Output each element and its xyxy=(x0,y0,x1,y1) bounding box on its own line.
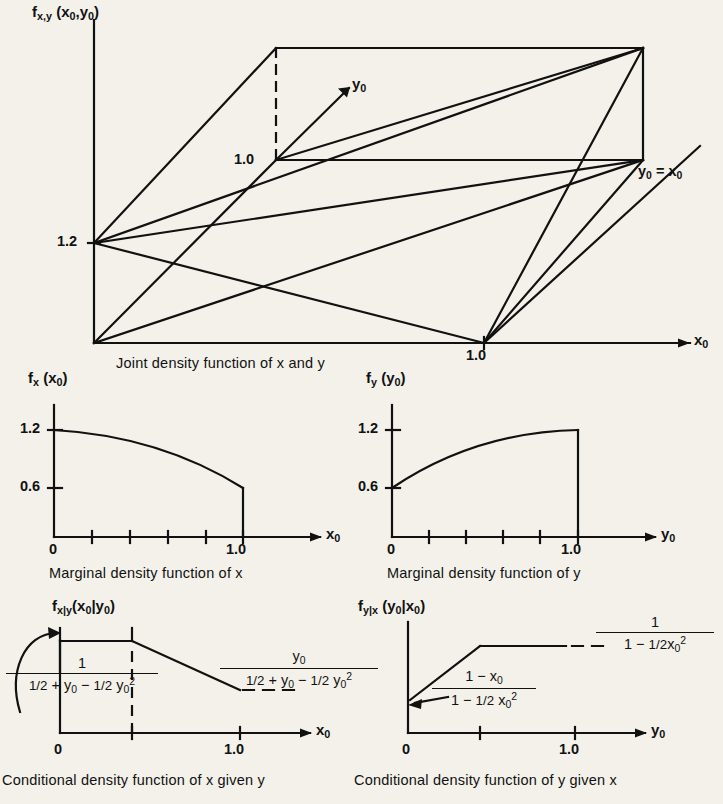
mx-density-curve xyxy=(54,430,243,488)
joint-base-to-depth-origin-ext xyxy=(94,160,276,343)
caption-cond-x: Conditional density function of x given … xyxy=(2,772,265,788)
cx-x-axis-label: x0 xyxy=(316,722,330,740)
joint-tick-label-1-0-depth: 1.0 xyxy=(234,152,254,167)
mx-tick-label-0-6: 0.6 xyxy=(20,479,40,494)
cx-tail-value: y0 1/2 + y0 − 1/2 y02 xyxy=(220,648,378,691)
figure-root: fx,y (x0,y0) y0 1.0 1.2 1.0 x0 y0 = x0 J… xyxy=(0,0,723,804)
my-y-axis-label: fy (y0) xyxy=(366,370,406,388)
cy-origin-numerator: 1 − x0 xyxy=(432,668,536,688)
cy-plateau-denominator: 1 − 1/2x02 xyxy=(596,632,714,655)
mx-tick-label-1-0: 1.0 xyxy=(226,542,246,557)
cx-tick-label-1-0: 1.0 xyxy=(224,742,244,757)
cx-plateau-denominator: 1/2 + y0 − 1/2 y02 xyxy=(6,673,158,696)
joint-tick-label-1-2: 1.2 xyxy=(57,234,77,249)
cy-y-axis-label: fy|x (y0|x0) xyxy=(358,598,425,616)
my-density-curve xyxy=(392,430,578,488)
joint-left-rising-edge xyxy=(94,48,276,243)
cx-tail-denominator: 1/2 + y0 − 1/2 y02 xyxy=(220,668,378,691)
cy-tick-label-1-0: 1.0 xyxy=(559,742,579,757)
caption-marginal-y: Marginal density function of y xyxy=(387,565,581,581)
my-x-axis-label: y0 xyxy=(661,526,675,544)
cy-origin-value: 1 − x0 1 − 1/2 x02 xyxy=(432,668,536,711)
cx-tail-numerator: y0 xyxy=(220,648,378,668)
my-tick-label-0: 0 xyxy=(387,542,395,557)
cy-tick-label-0: 0 xyxy=(402,742,410,757)
joint-front-right-rising xyxy=(484,48,643,343)
joint-x-axis-arrow xyxy=(678,339,690,348)
mx-x-axis-label: x0 xyxy=(326,526,340,544)
cx-x-axis-arrow xyxy=(300,729,312,738)
cx-plateau-value: 1 1/2 + y0 − 1/2 y02 xyxy=(6,655,158,695)
joint-x-axis-label: x0 xyxy=(694,332,708,350)
cy-x-axis-label: y0 xyxy=(651,722,665,740)
joint-descending-edge xyxy=(94,243,484,343)
cx-plateau-numerator: 1 xyxy=(6,655,158,673)
my-x-axis-arrow xyxy=(645,533,657,542)
joint-depth-axis-label: y0 xyxy=(352,76,366,94)
cy-origin-denominator: 1 − 1/2 x02 xyxy=(432,688,536,711)
my-tick-label-0-6: 0.6 xyxy=(358,479,378,494)
joint-y-axis-label: fx,y (x0,y0) xyxy=(32,4,99,22)
joint-tick-label-1-0-base: 1.0 xyxy=(466,348,486,363)
cy-plateau-numerator: 1 xyxy=(596,614,714,632)
mx-tick-label-1-2: 1.2 xyxy=(20,421,40,436)
mx-y-axis-label: fx (x0) xyxy=(28,370,68,388)
caption-joint: Joint density function of x and y xyxy=(116,355,325,371)
mx-x-axis-arrow xyxy=(310,533,322,542)
cx-tick-label-0: 0 xyxy=(54,742,62,757)
caption-marginal-x: Marginal density function of x xyxy=(49,565,243,581)
cx-y-axis-label: fx|y(x0|y0) xyxy=(52,598,115,616)
mx-tick-label-0: 0 xyxy=(49,542,57,557)
cy-x-axis-arrow xyxy=(635,729,647,738)
caption-cond-y: Conditional density function of y given … xyxy=(354,772,617,788)
joint-base-ray-upper xyxy=(276,48,643,160)
joint-upper-diagonal xyxy=(94,48,643,243)
my-tick-label-1-2: 1.2 xyxy=(358,421,378,436)
joint-diagonal-label: y0 = x0 xyxy=(638,164,682,181)
cy-plateau-value: 1 1 − 1/2x02 xyxy=(596,614,714,654)
joint-base-to-right-depth xyxy=(94,160,643,343)
my-tick-label-1-0: 1.0 xyxy=(561,542,581,557)
